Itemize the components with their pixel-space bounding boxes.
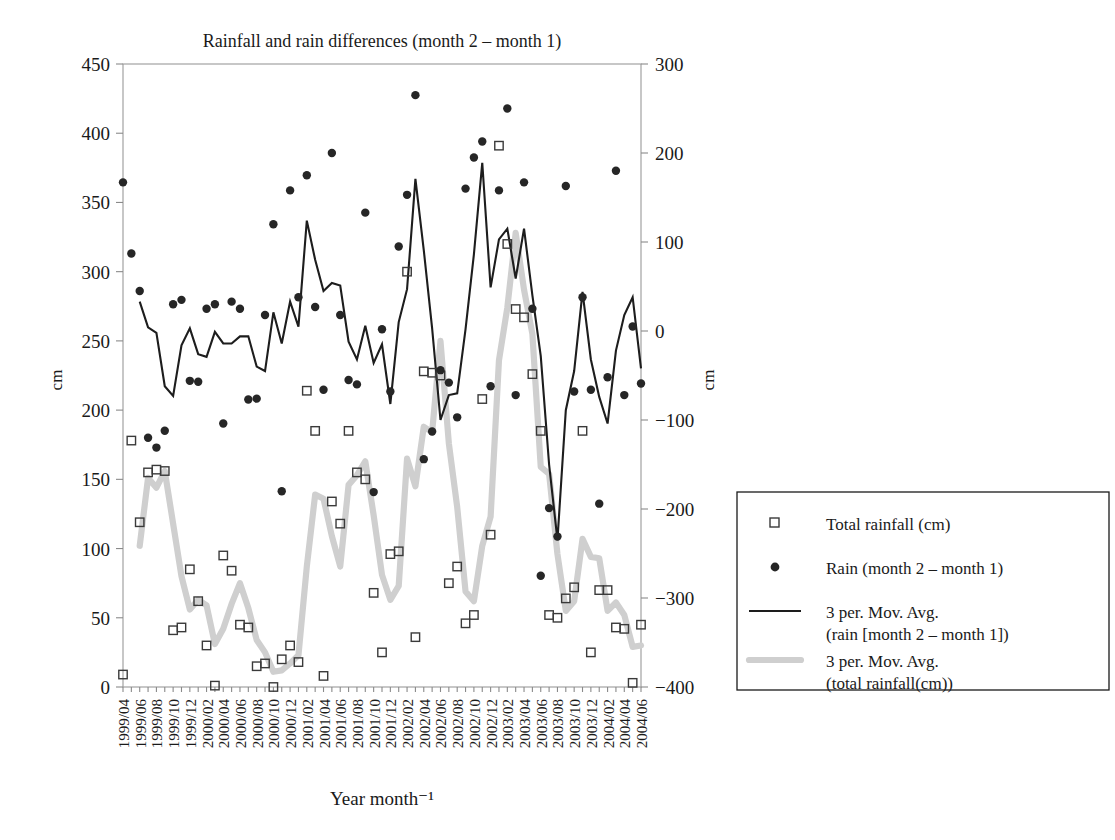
rain-diff-marker <box>436 366 444 374</box>
rain-diff-marker <box>202 305 210 313</box>
legend-dot-icon <box>771 563 780 572</box>
rain-diff-marker <box>562 182 570 190</box>
total-rainfall-marker <box>328 497 336 505</box>
chart-legend: Total rainfall (cm)Rain (month 2 – month… <box>737 492 1109 693</box>
total-rainfall-marker <box>461 619 469 627</box>
total-rainfall-marker <box>378 648 386 656</box>
rain-diff-marker <box>637 379 645 387</box>
y-tick-label-right: 0 <box>655 321 665 342</box>
x-tick-label: 2003/02 <box>500 699 516 748</box>
rain-diff-marker <box>252 394 260 402</box>
rain-diff-marker <box>511 391 519 399</box>
total-rainfall-marker <box>311 427 319 435</box>
y-tick-label-right: −200 <box>655 499 694 520</box>
rain-diff-marker <box>336 311 344 319</box>
y-tick-label-right: 300 <box>655 54 684 75</box>
y-tick-label-left: 450 <box>82 54 111 75</box>
total-rainfall-marker <box>369 589 377 597</box>
y-tick-label-left: 200 <box>82 400 111 421</box>
rain-diff-marker <box>144 434 152 442</box>
rain-diff-marker <box>612 167 620 175</box>
rain-diff-marker <box>127 249 135 257</box>
total-rainfall-marker <box>219 551 227 559</box>
rain-diff-marker <box>369 488 377 496</box>
x-tick-label: 2000/10 <box>266 699 282 748</box>
rain-diff-marker <box>386 387 394 395</box>
x-tick-label: 1999/12 <box>183 699 199 748</box>
x-tick-label: 2003/06 <box>534 699 550 749</box>
rain-diff-marker <box>261 311 269 319</box>
left-axis-title: cm <box>47 370 66 391</box>
legend-label: Rain (month 2 – month 1) <box>826 559 1003 578</box>
rain-diff-marker <box>353 380 361 388</box>
rain-diff-marker <box>328 149 336 157</box>
rain-diff-marker <box>395 242 403 250</box>
x-tick-label: 2002/04 <box>417 699 433 749</box>
mov-avg-total-rainfall-line <box>140 233 641 672</box>
rain-diff-marker <box>194 378 202 386</box>
total-rainfall-marker <box>319 672 327 680</box>
y-tick-label-right: −400 <box>655 677 694 698</box>
x-tick-label: 2002/02 <box>400 699 416 748</box>
legend-label-line2: (total rainfall(cm)) <box>826 674 953 693</box>
mov-avg-rain-diff-line <box>140 163 641 540</box>
rain-diff-marker <box>169 300 177 308</box>
x-tick-label: 2002/10 <box>467 699 483 748</box>
total-rainfall-marker <box>303 387 311 395</box>
rain-diff-marker <box>403 191 411 199</box>
total-rainfall-marker <box>511 305 519 313</box>
rain-diff-marker <box>570 387 578 395</box>
total-rainfall-marker <box>177 623 185 631</box>
total-rainfall-marker <box>445 579 453 587</box>
series-rain-diff-markers <box>119 91 645 580</box>
x-tick-label: 1999/04 <box>116 699 132 749</box>
rain-diff-marker <box>595 499 603 507</box>
rain-diff-marker <box>319 386 327 394</box>
rain-diff-marker <box>603 373 611 381</box>
legend-label-line2: (rain [month 2 – month 1]) <box>826 625 1009 644</box>
x-tick-label: 2004/06 <box>634 699 650 749</box>
x-tick-label: 2002/06 <box>433 699 449 749</box>
y-tick-label-left: 300 <box>82 262 111 283</box>
x-tick-label: 2003/08 <box>550 699 566 748</box>
rain-diff-marker <box>545 504 553 512</box>
series-mov-avg-rain-diff <box>140 163 641 540</box>
rain-diff-marker <box>445 378 453 386</box>
rain-diff-marker <box>553 532 561 540</box>
total-rainfall-marker <box>227 567 235 575</box>
legend-label: 3 per. Mov. Avg. <box>826 652 939 671</box>
y-tick-label-right: −100 <box>655 410 694 431</box>
y-tick-label-left: 400 <box>82 123 111 144</box>
rain-diff-marker <box>219 419 227 427</box>
total-rainfall-marker <box>587 648 595 656</box>
x-tick-label: 2001/04 <box>317 699 333 749</box>
x-tick-label: 2004/02 <box>601 699 617 748</box>
rain-diff-marker <box>378 325 386 333</box>
total-rainfall-marker <box>578 427 586 435</box>
rain-diff-marker <box>244 395 252 403</box>
rain-diff-marker <box>428 427 436 435</box>
x-tick-label: 2002/12 <box>484 699 500 748</box>
y-tick-label-left: 100 <box>82 539 111 560</box>
y-tick-label-right: 100 <box>655 232 684 253</box>
x-tick-label: 2001/02 <box>300 699 316 748</box>
total-rainfall-marker <box>403 267 411 275</box>
y-tick-label-right: −300 <box>655 588 694 609</box>
total-rainfall-marker <box>420 367 428 375</box>
rain-diff-marker <box>294 293 302 301</box>
rainfall-chart: Rainfall and rain differences (month 2 –… <box>0 0 1115 840</box>
rain-diff-marker <box>344 376 352 384</box>
total-rainfall-marker <box>286 641 294 649</box>
y-tick-label-left: 50 <box>91 608 110 629</box>
rain-diff-marker <box>177 296 185 304</box>
total-rainfall-marker <box>545 611 553 619</box>
total-rainfall-marker <box>186 565 194 573</box>
x-tick-label: 1999/06 <box>133 699 149 749</box>
total-rainfall-marker <box>386 550 394 558</box>
rain-diff-marker <box>211 300 219 308</box>
x-tick-label: 2001/06 <box>333 699 349 749</box>
y-tick-label-left: 150 <box>82 469 111 490</box>
total-rainfall-marker <box>344 427 352 435</box>
rain-diff-marker <box>620 391 628 399</box>
x-tick-label: 2003/12 <box>584 699 600 748</box>
